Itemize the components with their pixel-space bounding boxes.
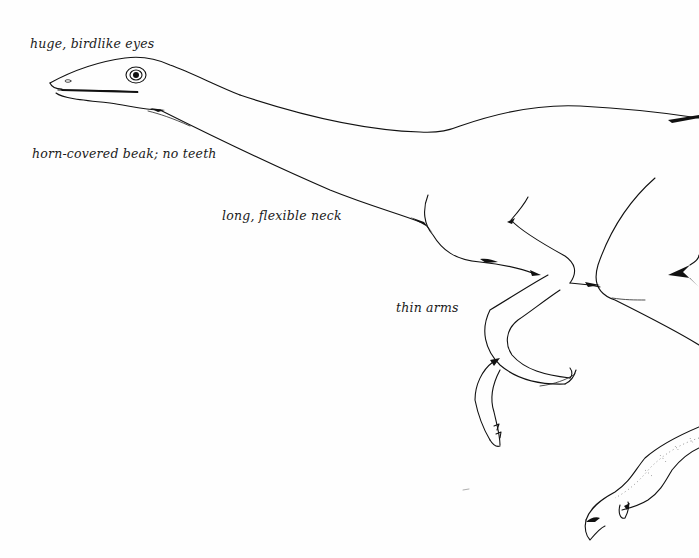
dinosaur-illustration <box>0 0 699 558</box>
foot <box>585 427 699 540</box>
label-beak: horn-covered beak; no teeth <box>32 146 217 161</box>
label-eyes: huge, birdlike eyes <box>30 36 154 51</box>
label-neck: long, flexible neck <box>222 208 342 223</box>
label-arms: thin arms <box>396 300 459 315</box>
head <box>50 57 240 126</box>
dinosaur-diagram: huge, birdlike eyes horn-covered beak; n… <box>0 0 699 558</box>
arms <box>475 275 576 446</box>
